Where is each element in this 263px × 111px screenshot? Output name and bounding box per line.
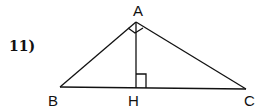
- side-ab: [60, 22, 136, 87]
- vertex-label-a: A: [133, 2, 143, 19]
- right-angle-marker-h: [136, 74, 146, 88]
- triangle-diagram: A B H C: [0, 0, 263, 111]
- vertex-label-b: B: [48, 92, 58, 109]
- side-ac: [136, 22, 246, 89]
- vertex-label-h: H: [128, 92, 139, 109]
- vertex-label-c: C: [244, 92, 255, 109]
- side-bc: [60, 87, 246, 89]
